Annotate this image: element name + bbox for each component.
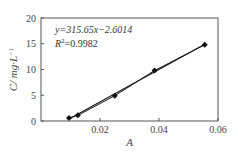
data-line (69, 45, 205, 118)
x-tick-label: 0.02 (91, 124, 109, 135)
data-point-marker (66, 115, 72, 121)
y-tick-label: 0 (31, 116, 36, 127)
r-squared-annotation: R2=0.9982 (54, 37, 98, 49)
y-tick-label: 20 (26, 13, 36, 24)
calibration-chart: 051015200.020.040.06AC/ mg·L−1y=315.65x−… (0, 0, 238, 154)
x-axis-label: A (125, 136, 133, 148)
y-tick-label: 10 (26, 64, 36, 75)
data-point-marker (202, 42, 208, 48)
chart-plot-area: 051015200.020.040.06AC/ mg·L−1y=315.65x−… (0, 0, 238, 154)
data-point-marker (112, 93, 118, 99)
y-tick-label: 5 (31, 90, 36, 101)
y-tick-label: 15 (26, 38, 36, 49)
x-tick-label: 0.04 (150, 124, 168, 135)
equation-annotation: y=315.65x−2.6014 (54, 24, 132, 35)
x-tick-label: 0.06 (209, 124, 227, 135)
y-axis-label: C/ mg·L−1 (7, 48, 19, 92)
